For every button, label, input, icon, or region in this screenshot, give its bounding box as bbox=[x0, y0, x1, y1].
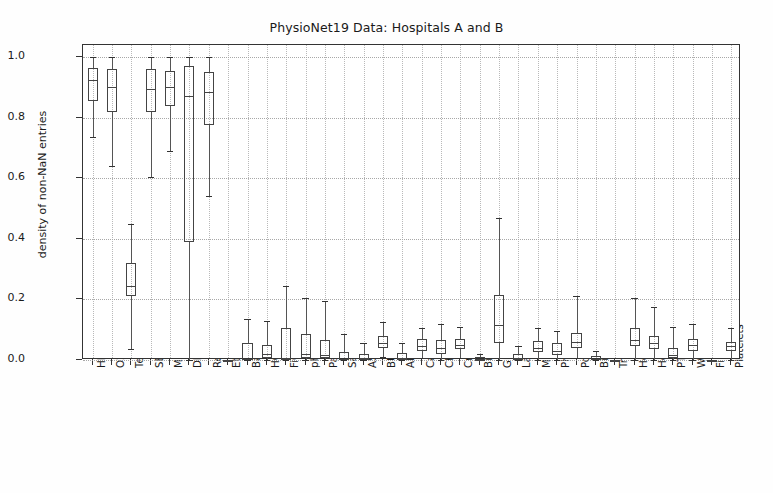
gridline-horizontal bbox=[83, 360, 739, 361]
boxplot-platelets bbox=[83, 45, 739, 358]
median-line bbox=[707, 360, 717, 361]
cap-lower bbox=[438, 360, 444, 361]
y-tick-mark bbox=[76, 359, 82, 360]
median-line bbox=[726, 346, 736, 347]
cap-lower bbox=[689, 360, 695, 361]
cap-lower bbox=[573, 358, 579, 359]
cap-lower bbox=[341, 360, 347, 361]
cap-upper bbox=[728, 328, 734, 329]
median-line bbox=[475, 360, 485, 361]
median-line bbox=[591, 359, 601, 360]
y-tick-label: 0.2 bbox=[0, 291, 25, 304]
cap-lower bbox=[670, 360, 676, 361]
figure-canvas: PhysioNet19 Data: Hospitals A and B dens… bbox=[0, 0, 773, 493]
whisker-upper bbox=[731, 328, 732, 342]
cap-lower bbox=[651, 360, 657, 361]
y-tick-label: 0.0 bbox=[0, 352, 25, 365]
median-line bbox=[359, 358, 369, 359]
cap-lower bbox=[728, 360, 734, 361]
cap-lower bbox=[283, 360, 289, 361]
chart-title: PhysioNet19 Data: Hospitals A and B bbox=[0, 20, 773, 35]
cap-lower bbox=[554, 360, 560, 361]
cap-lower bbox=[496, 360, 502, 361]
cap-lower bbox=[302, 360, 308, 361]
cap-lower bbox=[244, 360, 250, 361]
y-tick-label: 0.4 bbox=[0, 231, 25, 244]
y-tick-label: 1.0 bbox=[0, 49, 25, 62]
cap-lower bbox=[535, 360, 541, 361]
plot-area bbox=[82, 44, 740, 359]
median-line bbox=[339, 359, 349, 360]
median-line bbox=[397, 358, 407, 359]
cap-lower bbox=[593, 360, 599, 361]
cap-lower bbox=[264, 360, 270, 361]
median-line bbox=[610, 360, 620, 361]
median-line bbox=[223, 360, 233, 361]
cap-lower bbox=[515, 360, 521, 361]
median-line bbox=[281, 358, 291, 359]
cap-lower bbox=[186, 360, 192, 361]
whisker-lower bbox=[731, 351, 732, 360]
y-tick-label: 0.6 bbox=[0, 170, 25, 183]
cap-lower bbox=[399, 360, 405, 361]
cap-lower bbox=[419, 358, 425, 359]
cap-lower bbox=[360, 360, 366, 361]
cap-lower bbox=[457, 358, 463, 359]
y-axis-label: density of non-NaN entries bbox=[36, 55, 49, 315]
median-line bbox=[242, 359, 252, 360]
cap-lower bbox=[631, 360, 637, 361]
cap-lower bbox=[322, 360, 328, 361]
y-tick-label: 0.8 bbox=[0, 110, 25, 123]
median-line bbox=[513, 358, 523, 359]
